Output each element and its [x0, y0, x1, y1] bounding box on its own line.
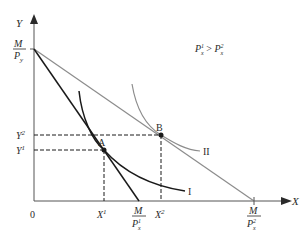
point-B-label: B	[156, 122, 163, 133]
diagram-canvas: Y X 0 M Py A B I II Y2 Y1 X1 X2 M P1x M	[0, 0, 307, 240]
x-axis-label: X	[291, 195, 300, 207]
x-intercept-1-num: M	[133, 205, 143, 216]
x1-tick-label: X1	[96, 208, 107, 220]
x-axis-arrow-icon	[281, 197, 292, 205]
x-intercept-2-num: M	[248, 205, 258, 216]
y2-tick-label: Y2	[16, 129, 26, 141]
x-intercept-2-den: P2x	[246, 218, 256, 231]
point-A-marker	[102, 148, 107, 153]
budget-line-2	[34, 49, 254, 201]
x-intercept-2-label: M P2x	[246, 205, 261, 231]
point-A-label: A	[98, 137, 106, 148]
curve-II-label: II	[203, 146, 210, 157]
x2-tick-label: X2	[154, 208, 165, 220]
budget-line-1	[34, 49, 139, 201]
y-axis-label: Y	[16, 17, 24, 29]
indifference-curve-I	[79, 91, 185, 191]
y-intercept-num: M	[13, 38, 23, 49]
x-intercept-1-den: P1x	[131, 218, 141, 231]
y1-tick-label: Y1	[16, 144, 25, 156]
indifference-curve-II	[132, 84, 200, 151]
y-axis-arrow-icon	[30, 14, 38, 24]
x-intercept-1-label: M P1x	[131, 205, 146, 231]
price-condition-label: P1x > P2x	[194, 43, 224, 56]
curve-I-label: I	[188, 186, 191, 197]
axes	[30, 14, 292, 205]
y-intercept-den: Py	[13, 50, 24, 64]
y-intercept-label: M Py	[13, 38, 26, 64]
point-B-marker	[159, 133, 164, 138]
origin-label: 0	[30, 209, 35, 220]
